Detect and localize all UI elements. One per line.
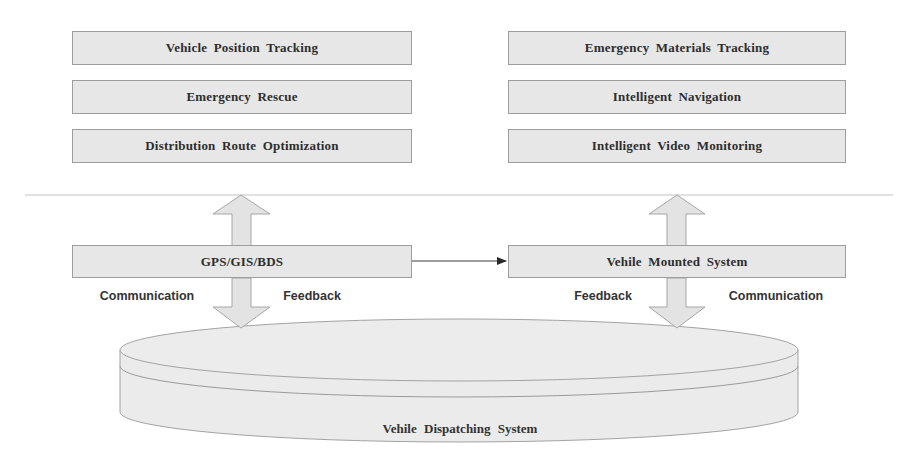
app-box-label: Intelligent Navigation <box>613 89 741 105</box>
node-label: GPS/GIS/BDS <box>201 254 283 270</box>
gps-gis-bds-node: GPS/GIS/BDS <box>72 245 412 278</box>
dispatching-system-label: Vehile Dispatching System <box>383 421 538 437</box>
app-box-distribution-route-optimization: Distribution Route Optimization <box>72 129 412 163</box>
left-lower-double-arrow <box>213 278 270 328</box>
node-label: Vehile Mounted System <box>606 254 747 270</box>
cylinder-top <box>120 319 798 381</box>
app-box-label: Emergency Rescue <box>186 89 297 105</box>
app-box-emergency-rescue: Emergency Rescue <box>72 80 412 114</box>
app-box-intelligent-video-monitoring: Intelligent Video Monitoring <box>508 129 846 163</box>
left-communication-label: Communication <box>100 289 194 303</box>
left-feedback-label: Feedback <box>283 289 341 303</box>
diagram-graphics <box>0 0 916 469</box>
right-upper-double-arrow <box>649 195 705 246</box>
right-lower-double-arrow <box>649 278 705 328</box>
architecture-diagram: Vehicle Position Tracking Emergency Resc… <box>0 0 916 469</box>
left-upper-double-arrow <box>213 195 270 246</box>
app-box-emergency-materials-tracking: Emergency Materials Tracking <box>508 31 846 65</box>
app-box-label: Intelligent Video Monitoring <box>592 138 763 154</box>
right-communication-label: Communication <box>729 289 823 303</box>
app-box-label: Vehicle Position Tracking <box>166 40 318 56</box>
app-box-vehicle-position-tracking: Vehicle Position Tracking <box>72 31 412 65</box>
vehicle-mounted-system-node: Vehile Mounted System <box>508 245 846 278</box>
app-box-label: Distribution Route Optimization <box>145 138 338 154</box>
app-box-intelligent-navigation: Intelligent Navigation <box>508 80 846 114</box>
app-box-label: Emergency Materials Tracking <box>585 40 769 56</box>
right-feedback-label: Feedback <box>574 289 632 303</box>
